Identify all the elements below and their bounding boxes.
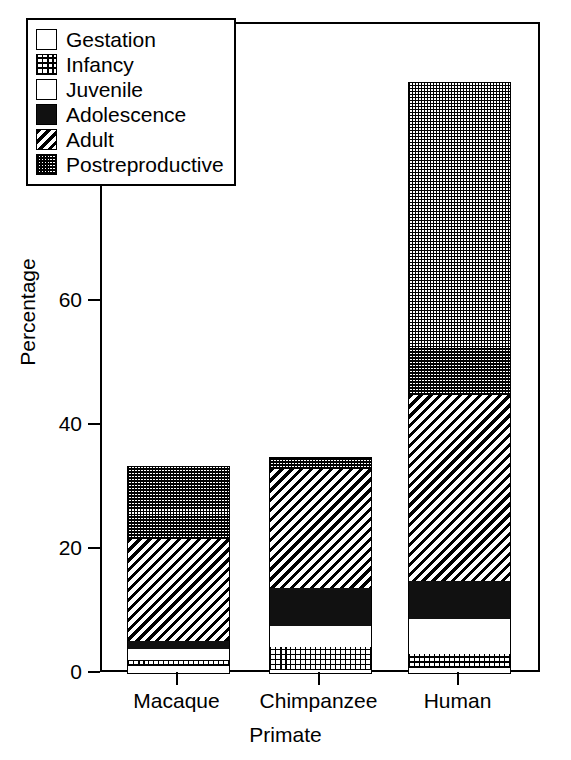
legend-swatch-postreproductive-icon bbox=[36, 154, 57, 175]
y-tick-mark bbox=[88, 671, 100, 673]
legend-label: Adult bbox=[66, 129, 114, 150]
legend-item-infancy[interactable]: Infancy bbox=[36, 52, 224, 77]
y-tick-mark bbox=[88, 547, 100, 549]
legend-label: Gestation bbox=[66, 29, 156, 50]
bar-segment-chimpanzee-postreproductive[interactable] bbox=[269, 457, 372, 469]
x-axis-title: Primate bbox=[0, 723, 571, 747]
bar-segment-macaque-gestation[interactable] bbox=[127, 666, 230, 674]
y-axis-title: Percentage bbox=[16, 232, 40, 392]
legend-label: Juvenile bbox=[66, 79, 143, 100]
bar-segment-human-adolescence[interactable] bbox=[408, 581, 511, 619]
bar-segment-human-postreproductive[interactable] bbox=[408, 82, 511, 395]
legend-label: Postreproductive bbox=[66, 154, 224, 175]
y-tick-label-20: 20 bbox=[22, 537, 82, 558]
bar-segment-macaque-adult[interactable] bbox=[127, 539, 230, 640]
bar-segment-human-adult[interactable] bbox=[408, 395, 511, 581]
bar-segment-chimpanzee-juvenile[interactable] bbox=[269, 626, 372, 647]
legend-label: Adolescence bbox=[66, 104, 186, 125]
x-tick-mark bbox=[318, 672, 320, 685]
bar-segment-macaque-adolescence[interactable] bbox=[127, 641, 230, 649]
legend-swatch-adult-icon bbox=[36, 129, 57, 150]
bar-segment-macaque-postreproductive[interactable] bbox=[127, 466, 230, 540]
legend-item-gestation[interactable]: Gestation bbox=[36, 27, 224, 52]
x-tick-label-human: Human bbox=[373, 690, 543, 712]
bar-segment-macaque-juvenile[interactable] bbox=[127, 649, 230, 660]
y-tick-mark bbox=[88, 299, 100, 301]
legend-swatch-infancy-icon bbox=[36, 54, 57, 75]
legend-swatch-adolescence-icon bbox=[36, 104, 57, 125]
y-tick-mark bbox=[88, 423, 100, 425]
bar-segment-chimpanzee-infancy[interactable] bbox=[269, 647, 372, 670]
x-tick-mark bbox=[457, 672, 459, 685]
bar-segment-human-gestation[interactable] bbox=[408, 668, 511, 674]
chart-legend: GestationInfancyJuvenileAdolescenceAdult… bbox=[26, 18, 236, 186]
bar-human[interactable] bbox=[408, 24, 511, 670]
legend-label: Infancy bbox=[66, 54, 134, 75]
bar-chimpanzee[interactable] bbox=[269, 24, 372, 670]
x-tick-mark bbox=[176, 672, 178, 685]
bar-segment-human-infancy[interactable] bbox=[408, 654, 511, 668]
legend-item-postreproductive[interactable]: Postreproductive bbox=[36, 152, 224, 177]
bar-segment-chimpanzee-adolescence[interactable] bbox=[269, 588, 372, 626]
bar-segment-chimpanzee-gestation[interactable] bbox=[269, 670, 372, 674]
legend-swatch-gestation-icon bbox=[36, 29, 57, 50]
legend-item-adult[interactable]: Adult bbox=[36, 127, 224, 152]
y-tick-label-40: 40 bbox=[22, 413, 82, 434]
legend-item-adolescence[interactable]: Adolescence bbox=[36, 102, 224, 127]
y-tick-label-0: 0 bbox=[22, 661, 82, 682]
bar-segment-chimpanzee-adult[interactable] bbox=[269, 469, 372, 588]
legend-item-juvenile[interactable]: Juvenile bbox=[36, 77, 224, 102]
bar-segment-human-juvenile[interactable] bbox=[408, 619, 511, 654]
bar-segment-macaque-infancy[interactable] bbox=[127, 660, 230, 666]
legend-swatch-juvenile-icon bbox=[36, 79, 57, 100]
y-tick-label-60: 60 bbox=[22, 289, 82, 310]
